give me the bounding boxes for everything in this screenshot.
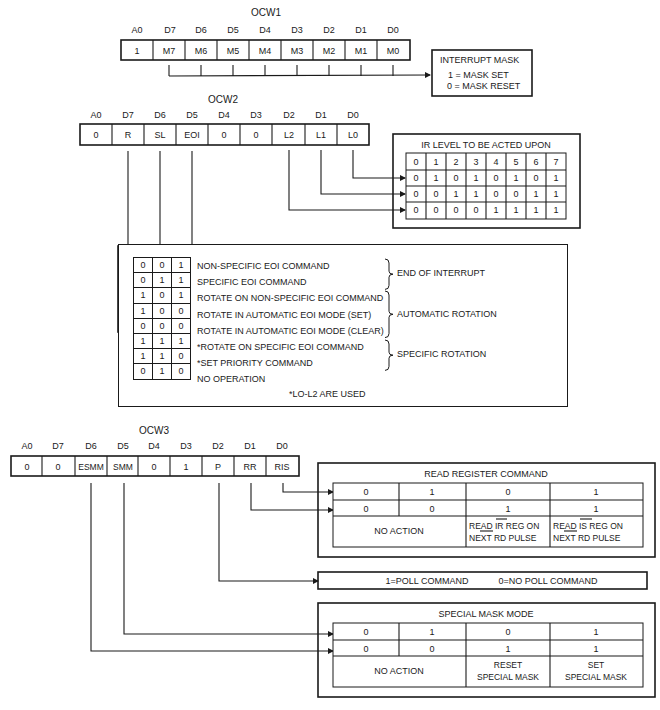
ocw2-level-arrows [289,150,405,210]
command-row: 011 [134,273,191,288]
brace-icon [384,258,394,290]
register-cell: L1 [316,130,326,140]
command-bit-cell: 0 [134,364,153,379]
ir-cell: 0 [493,173,498,183]
bit-label: D3 [291,25,303,35]
command-label: SPECIFIC EOI COMMAND [197,274,307,290]
register-cell: 0 [24,462,29,472]
reset-special-mask-line1: RESET [494,660,522,670]
command-bit-cell: 0 [134,258,153,273]
smm-cell: 0 [429,644,434,654]
command-bit-cell: 0 [134,318,153,333]
ir-cell: 0 [453,205,458,215]
command-row: 101 [134,288,191,303]
bit-label: A0 [21,441,32,451]
command-bit-cell: 1 [172,273,191,288]
poll-command-label: 1=POLL COMMAND [386,576,469,586]
ocw3-arrows [91,483,333,651]
bit-label: D6 [154,110,166,120]
register-cell: ESMM [78,462,104,472]
ir-cell: 0 [493,189,498,199]
brace-icon [384,290,394,339]
mask-set-label: 1 = MASK SET [448,70,509,80]
ocw1-bit-labels: A0 D7 D6 D5 D4 D3 D2 D1 D0 [131,25,398,35]
command-bit-cell: 0 [153,258,172,273]
command-label: NON-SPECIFIC EOI COMMAND [197,258,330,274]
bit-label: D1 [244,441,256,451]
register-cell: RR [244,462,257,472]
command-row: 001 [134,258,191,273]
reset-special-mask-line2: SPECIAL MASK [477,672,539,682]
ir-cell: 1 [553,189,558,199]
bit-label: D4 [148,441,160,451]
bit-label: A0 [90,110,101,120]
ocw1-register: 1 M7 M6 M5 M4 M3 M2 M1 M0 [121,40,410,60]
ir-cell: 0 [413,189,418,199]
rr-cell: 0 [429,504,434,514]
command-label: NO OPERATION [197,371,265,387]
register-cell: M3 [291,46,304,56]
group-specific-rotation: SPECIFIC ROTATION [397,346,486,362]
register-cell: 0 [221,130,226,140]
ocw2-bit-labels: A0 D7 D6 D5 D4 D3 D2 D1 D0 [90,110,358,120]
ir-level-box: IR LEVEL TO BE ACTED UPON 0 1 2 3 4 5 6 … [393,134,580,228]
register-cell: P [215,462,221,472]
special-mask-box: SPECIAL MASK MODE 0 1 0 1 0 0 1 1 NO ACT… [318,603,655,697]
bit-label: A0 [131,25,142,35]
bit-label: D5 [227,25,239,35]
ir-cell: 0 [433,189,438,199]
register-cell: SL [154,130,165,140]
read-is-line2: NEXT RD PULSE [553,533,621,543]
command-bit-cell: 1 [153,349,172,364]
bit-label: D5 [117,441,129,451]
command-bit-cell: 0 [172,318,191,333]
ir-cell: 1 [513,205,518,215]
read-register-box: READ REGISTER COMMAND 0 1 0 1 0 0 1 1 NO… [318,463,655,557]
command-bit-cell: 1 [172,258,191,273]
no-action-label: NO ACTION [374,526,424,536]
command-label: *SET PRIORITY COMMAND [197,355,313,371]
ir-cell: 4 [493,157,498,167]
interrupt-mask-box: INTERRUPT MASK 1 = MASK SET 0 = MASK RES… [432,50,532,96]
smm-cell: 1 [593,644,598,654]
smm-cell: 1 [593,627,598,637]
ir-cell: 1 [533,205,538,215]
register-cell: M7 [163,46,176,56]
read-is-line1: READ IS REG ON [553,521,623,531]
ir-cell: 1 [473,189,478,199]
bit-label: D3 [180,441,192,451]
bit-label: D6 [85,441,97,451]
command-bit-cell: 0 [172,349,191,364]
command-row: 100 [134,303,191,318]
bit-label: D7 [122,110,134,120]
ir-cell: 1 [433,157,438,167]
bit-label: D6 [195,25,207,35]
smm-cell: 0 [505,627,510,637]
ir-cell: 0 [433,205,438,215]
smm-cell: 0 [363,627,368,637]
ir-cell: 0 [413,205,418,215]
command-label: *ROTATE ON SPECIFIC EOI COMMAND [197,339,364,355]
ir-cell: 6 [533,157,538,167]
bit-label: D0 [347,110,359,120]
ocw1-title: OCW1 [251,7,281,18]
bit-label: D7 [52,441,64,451]
command-bit-cell: 0 [153,303,172,318]
command-row: 000 [134,318,191,333]
rr-cell: 1 [593,504,598,514]
ir-cell: 1 [553,205,558,215]
bit-label: D7 [164,25,176,35]
rr-cell: 0 [505,487,510,497]
bit-label: D4 [259,25,271,35]
brace-icon [384,339,394,371]
ir-cell: 3 [473,157,478,167]
register-cell: L2 [284,130,294,140]
read-register-title: READ REGISTER COMMAND [424,469,548,479]
ocw3-section: OCW3 A0 D7 D6 D5 D4 D3 D2 D1 D0 0 0 ESMM… [11,425,655,697]
register-cell: 0 [93,130,98,140]
register-cell: M2 [323,46,336,56]
smm-cell: 1 [505,644,510,654]
register-cell: SMM [113,462,133,472]
ir-cell: 1 [473,173,478,183]
ir-cell: 7 [553,157,558,167]
